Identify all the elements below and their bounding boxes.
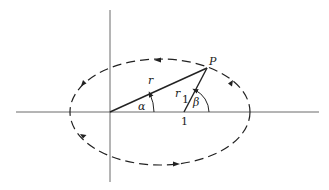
point-p-label: P [208, 55, 217, 68]
beta-label: β [192, 96, 199, 109]
radius-r1-subscript: 1 [182, 93, 189, 106]
radius-r1-label: r [175, 87, 181, 100]
arrow-upper-right-icon [228, 80, 233, 87]
alpha-arc [150, 94, 154, 112]
arrow-bottom-icon [173, 162, 180, 167]
orbit-diagram: P r r 1 α β 1 [0, 0, 329, 190]
arrow-upper-left-icon [81, 80, 87, 86]
arrow-top-icon [154, 58, 161, 63]
radius-r-label: r [148, 74, 154, 87]
alpha-label: α [138, 100, 146, 113]
unit-mark-label: 1 [181, 115, 188, 128]
